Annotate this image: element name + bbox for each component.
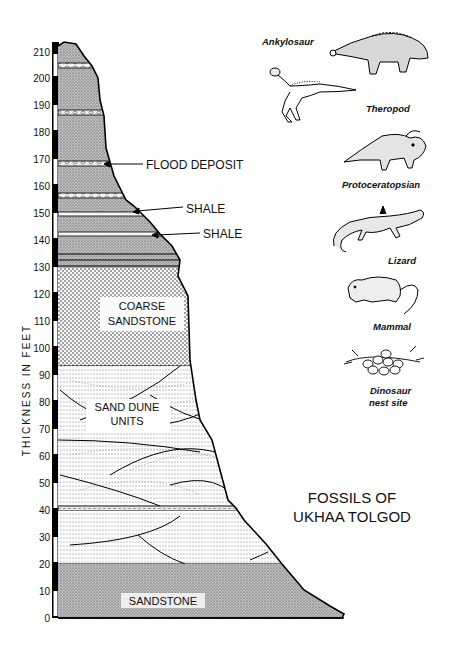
coarse-sandstone-label-1: COARSE [119, 300, 165, 312]
flood-deposit-label: FLOOD DEPOSIT [146, 158, 244, 172]
diagram-title-line-1: FOSSILS OF [308, 489, 396, 506]
tick-90: 90 [39, 370, 51, 381]
tick-70: 70 [39, 424, 51, 435]
tick-80: 80 [39, 397, 51, 408]
sand-dune-label-2: UNITS [111, 415, 144, 427]
fossil-label-nest-2: nest site [369, 397, 408, 408]
tick-120: 120 [33, 289, 50, 300]
sand-dune-beds-upper [58, 366, 358, 506]
tick-40: 40 [39, 505, 51, 516]
tick-20: 20 [39, 559, 51, 570]
sandstone-bed [58, 564, 358, 618]
tick-50: 50 [39, 478, 51, 489]
coarse-sandstone-label-2: SANDSTONE [108, 315, 176, 327]
tick-100: 100 [33, 343, 50, 354]
tick-190: 190 [33, 100, 50, 111]
nest-icon [344, 346, 424, 375]
tick-140: 140 [33, 235, 50, 246]
tick-170: 170 [33, 154, 50, 165]
lizard-icon [333, 206, 423, 252]
shale-label-upper: SHALE [186, 202, 225, 216]
tick-210: 210 [33, 47, 50, 58]
fossil-illustrations: Ankylosaur Theropod Protoceratopsian Liz… [261, 32, 428, 408]
ankylosaur-icon [330, 32, 428, 74]
theropod-icon [270, 68, 356, 122]
tick-10: 10 [39, 586, 51, 597]
fossil-label-protoceratopsian: Protoceratopsian [342, 179, 420, 190]
thickness-scale-bar [52, 42, 59, 618]
tick-labels: 0 10 20 30 40 50 60 70 80 90 100 110 120… [33, 47, 50, 624]
diagram-title-line-2: UKHAA TOLGOD [293, 508, 411, 525]
tick-160: 160 [33, 181, 50, 192]
mammal-icon [348, 277, 418, 314]
tick-150: 150 [33, 208, 50, 219]
tick-110: 110 [34, 316, 50, 327]
protoceratopsian-icon [344, 131, 426, 170]
tick-130: 130 [33, 262, 50, 273]
fossil-label-ankylosaur: Ankylosaur [261, 36, 315, 47]
tick-200: 200 [33, 73, 50, 84]
sandstone-label: SANDSTONE [129, 595, 197, 607]
fossil-label-lizard: Lizard [388, 255, 416, 266]
tick-180: 180 [33, 127, 50, 138]
tick-30: 30 [39, 532, 51, 543]
fossil-label-mammal: Mammal [373, 321, 411, 332]
sand-dune-label-1: SAND DUNE [95, 401, 160, 413]
axis-title: THICKNESS IN FEET [21, 324, 32, 456]
stratigraphic-column-diagram: 0 10 20 30 40 50 60 70 80 90 100 110 120… [0, 0, 451, 654]
fossil-label-nest-1: Dinosaur [370, 385, 412, 396]
tick-0: 0 [44, 613, 50, 624]
tick-60: 60 [39, 451, 51, 462]
fossil-label-theropod: Theropod [366, 103, 410, 114]
shale-label-lower: SHALE [203, 227, 242, 241]
